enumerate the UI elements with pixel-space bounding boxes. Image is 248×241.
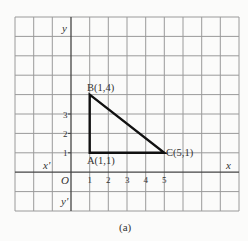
- figure-caption: (a): [119, 221, 132, 234]
- x-tick-4: 4: [144, 175, 149, 185]
- x-tick-5: 5: [162, 175, 167, 185]
- point-c-label: C(5,1): [166, 147, 194, 159]
- x-tick-3: 3: [125, 175, 130, 185]
- x-tick-2: 2: [106, 175, 111, 185]
- y-neg-axis-label: y': [60, 195, 69, 207]
- coordinate-diagram: y y' x x' O 3 2 1 1 2 3 4 5 B(1,4) A(1,1…: [0, 0, 248, 241]
- x-neg-axis-label: x': [42, 159, 51, 171]
- origin-label: O: [61, 174, 69, 186]
- y-tick-1: 1: [63, 148, 68, 158]
- y-tick-2: 2: [63, 129, 68, 139]
- x-tick-1: 1: [88, 175, 93, 185]
- point-a-label: A(1,1): [87, 155, 115, 167]
- y-tick-3: 3: [63, 110, 68, 120]
- y-axis-label: y: [61, 22, 67, 34]
- point-b-label: B(1,4): [87, 82, 115, 94]
- x-axis-label: x: [225, 159, 231, 171]
